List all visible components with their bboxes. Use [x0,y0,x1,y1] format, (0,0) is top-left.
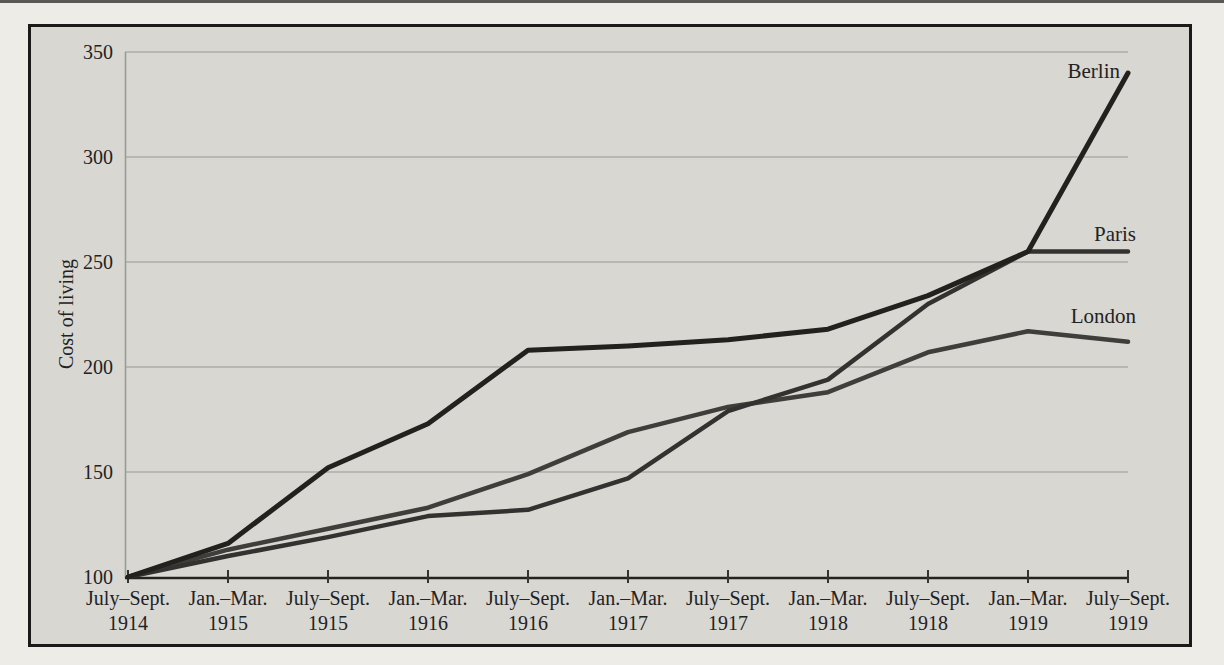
x-tick-label-year-0: 1914 [108,612,148,634]
x-tick-label-year-3: 1916 [408,612,448,634]
x-tick-label-year-10: 1919 [1108,612,1148,634]
x-tick-label-period-0: July–Sept. [86,587,170,610]
y-axis-title: Cost of living [55,259,78,369]
y-tick-label-350: 350 [83,41,113,63]
x-tick-label-period-7: Jan.–Mar. [789,587,868,609]
y-tick-label-300: 300 [83,146,113,168]
x-tick-label-year-5: 1917 [608,612,648,634]
figure-frame: Cost of living 100150200250300350July–Se… [28,24,1192,647]
series-label-paris: Paris [1094,222,1136,246]
x-tick-label-period-4: July–Sept. [486,587,570,610]
x-tick-label-year-7: 1918 [808,612,848,634]
x-tick-label-year-6: 1917 [708,612,748,634]
y-tick-label-150: 150 [83,461,113,483]
x-tick-label-period-10: July–Sept. [1086,587,1170,610]
series-line-paris [128,252,1128,578]
series-line-london [128,331,1128,577]
x-tick-label-period-2: July–Sept. [286,587,370,610]
x-tick-label-year-1: 1915 [208,612,248,634]
series-label-berlin: Berlin [1068,59,1121,83]
x-tick-label-year-2: 1915 [308,612,348,634]
x-tick-label-year-4: 1916 [508,612,548,634]
x-tick-label-period-6: July–Sept. [686,587,770,610]
x-tick-label-year-8: 1918 [908,612,948,634]
scan-artifact-top-edge [0,0,1224,3]
x-tick-label-period-8: July–Sept. [886,587,970,610]
x-tick-label-period-3: Jan.–Mar. [389,587,468,609]
cost-of-living-line-chart: Cost of living 100150200250300350July–Se… [31,27,1189,644]
x-tick-label-period-1: Jan.–Mar. [189,587,268,609]
y-tick-label-250: 250 [83,251,113,273]
y-tick-label-200: 200 [83,356,113,378]
y-tick-label-100: 100 [83,566,113,588]
series-line-berlin [128,73,1128,577]
x-tick-label-year-9: 1919 [1008,612,1048,634]
x-tick-label-period-5: Jan.–Mar. [589,587,668,609]
series-label-london: London [1071,304,1137,328]
x-tick-label-period-9: Jan.–Mar. [989,587,1068,609]
